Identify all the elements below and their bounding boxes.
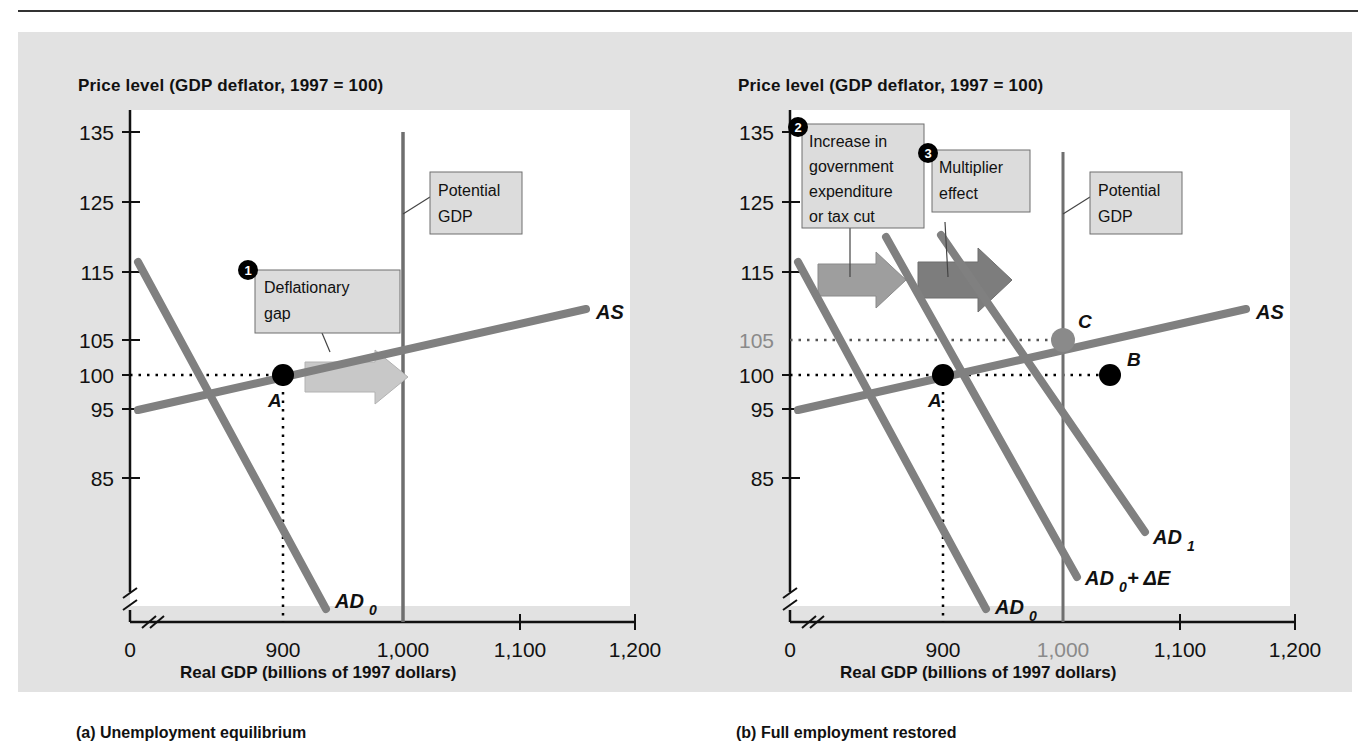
panel-b: Price level (GDP deflator, 1997 = 100) 1… [690,32,1350,692]
ad1-label-base: AD [1152,526,1182,548]
y-tick-label: 115 [741,261,774,284]
callout-line: Potential [1098,182,1160,199]
ad0de-label-sub: 0 [1119,579,1127,595]
callout-multiplier-effect: Multiplier effect 3 [918,143,1030,277]
point-c-label: C [1078,311,1092,332]
x-tick-label: 1,000 [377,638,430,661]
callout-line: effect [939,185,978,202]
y-tick-label: 100 [739,364,774,387]
government-expenditure-arrow [818,252,906,308]
ad0de-label-base: AD [1084,567,1114,589]
point-a-marker [272,364,294,386]
callout-line: Multiplier [939,159,1004,176]
x-tick-label: 900 [265,638,300,661]
badge-1-label: 1 [244,263,251,278]
y-tick-label: 100 [79,364,114,387]
chart-b: 135 125 115 105 100 95 85 0 900 1,000 1,… [690,32,1350,692]
x-tick-label: 1,100 [494,638,547,661]
x-tick-label: 900 [925,638,960,661]
y-tick-label: 85 [751,467,774,490]
y-tick-label: 105 [79,329,114,352]
callout-deflationary-gap: Deflationary gap 1 [238,260,400,352]
y-tick-label: 135 [739,121,774,144]
badge-3-label: 3 [924,146,931,161]
y-tick-label: 95 [751,398,774,421]
y-tick-label: 125 [79,191,114,214]
callout-line: GDP [1098,208,1133,225]
figure-panel: Price level (GDP deflator, 1997 = 100) 1… [18,32,1352,692]
y-tick-label: 125 [739,191,774,214]
x-axis-title-b: Real GDP (billions of 1997 dollars) [840,663,1116,683]
y-tick-label: 85 [91,467,114,490]
callout-line: Increase in [809,133,887,150]
point-b-marker [1099,364,1121,386]
panel-b-caption: (b) Full employment restored [736,724,956,742]
y-tick-label: 135 [79,121,114,144]
x-tick-label: 1,200 [609,638,662,661]
multiplier-effect-arrow [918,248,1012,312]
as-curve-b [798,309,1246,410]
callout-potential-gdp-a: Potential GDP [403,172,522,234]
ad0-label-base: AD [334,590,364,612]
callout-line: Deflationary [264,279,349,296]
x-tick-label-1000: 1,000 [1037,638,1090,661]
point-a-label: A [267,390,282,411]
ad0-label-sub: 0 [369,602,377,618]
panel-a-caption: (a) Unemployment equilibrium [76,724,306,742]
point-a-marker-b [932,364,954,386]
point-c-marker [1051,328,1075,352]
x-tick-label: 1,200 [1269,638,1322,661]
callout-line: Potential [438,182,500,199]
callout-line: GDP [438,208,473,225]
point-a-label-b: A [927,390,942,411]
ad0-label-sub-b: 0 [1029,608,1037,624]
callout-line: expenditure [809,183,893,200]
as-curve-label: AS [595,301,624,323]
ad0-curve-label-a: AD 0 [334,590,377,618]
x-tick-label: 0 [124,638,136,661]
x-tick-label: 0 [784,638,796,661]
callout-government-expenditure: Increase in government expenditure or ta… [788,117,924,277]
chart-a: 135 125 115 105 100 95 85 0 900 1,000 1,… [30,32,690,692]
ad1-curve-label: AD 1 [1152,526,1195,554]
ad0de-label-suffix: + ΔE [1127,567,1171,589]
point-b-label: B [1127,349,1141,370]
header-rule [18,10,1358,12]
ad0-curve-b [798,262,986,609]
y-tick-label: 95 [91,398,114,421]
y-tick-label: 115 [81,261,114,284]
as-curve-label-b: AS [1255,301,1284,323]
panel-a: Price level (GDP deflator, 1997 = 100) 1… [30,32,690,692]
ad0-plus-de-curve-label: AD 0 + ΔE [1084,567,1171,595]
callout-line: government [809,158,894,175]
badge-2-label: 2 [794,120,801,135]
x-axis-title-a: Real GDP (billions of 1997 dollars) [180,663,456,683]
ad1-label-sub: 1 [1187,538,1195,554]
callout-potential-gdp-b: Potential GDP [1063,172,1182,234]
callout-line: or tax cut [809,208,875,225]
ad0-curve-label-b: AD 0 [994,596,1037,624]
ad0-label-base-b: AD [994,596,1024,618]
x-tick-label: 1,100 [1154,638,1207,661]
callout-line: gap [264,305,291,322]
y-tick-label-105: 105 [739,329,774,352]
